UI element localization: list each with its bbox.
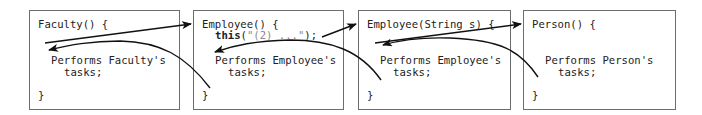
call-arrow-faculty-to-employee bbox=[45, 24, 191, 43]
call-arrow-employee-to-employee-string bbox=[322, 24, 356, 37]
return-arrow-employee-string-to-employee bbox=[215, 40, 381, 80]
call-flow-arrows bbox=[0, 0, 702, 115]
return-arrow-person-to-employee-string bbox=[383, 38, 538, 77]
call-arrow-employee-string-to-person bbox=[375, 24, 521, 43]
return-arrow-employee-to-faculty bbox=[49, 41, 210, 88]
